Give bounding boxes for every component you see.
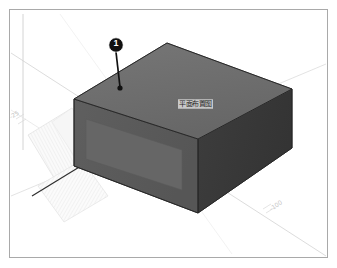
- isometric-model-viewport[interactable]: 1 平面布置图 -25 -100: [0, 0, 337, 268]
- callout-leader-dot: [117, 85, 122, 90]
- isometric-solid[interactable]: [74, 43, 292, 213]
- model-scene[interactable]: [0, 0, 337, 268]
